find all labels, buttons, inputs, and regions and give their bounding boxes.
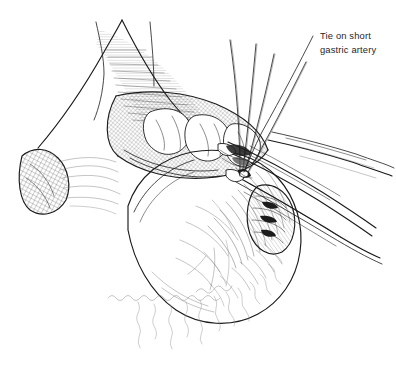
annotation-label-line-1: Tie on short <box>320 30 371 41</box>
surgical-illustration-figure: Tie on short gastric artery <box>0 0 396 370</box>
illustration-canvas: Tie on short gastric artery <box>0 0 396 370</box>
annotation-label-line-2: gastric artery <box>320 44 376 55</box>
